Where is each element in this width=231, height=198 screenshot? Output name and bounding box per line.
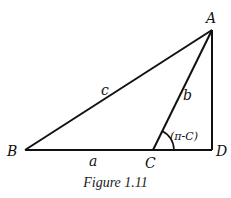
vertex-A-label: A <box>204 10 216 26</box>
figure-caption: Figure 1.11 <box>0 175 231 191</box>
vertex-D-label: D <box>215 143 227 159</box>
vertex-B-label: B <box>6 143 17 159</box>
side-b-label: b <box>183 87 192 103</box>
vertex-C-label: C <box>145 155 156 171</box>
triangle-diagram: A B C D a b c (π-C) <box>0 0 231 198</box>
side-a-label: a <box>89 153 97 169</box>
angle-label: (π-C) <box>170 130 198 143</box>
side-c-label: c <box>101 82 109 98</box>
